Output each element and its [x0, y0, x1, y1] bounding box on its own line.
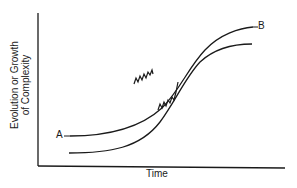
zigzag-upper — [134, 70, 153, 84]
diagram-canvas — [0, 0, 297, 188]
curve-end-label: B — [258, 20, 265, 31]
y-axis-label: Evolution or Growth of Complexity — [6, 10, 34, 160]
zigzag-lower — [158, 82, 178, 110]
y-axis-label-line2: of Complexity — [20, 41, 31, 129]
curve-start-label: A — [56, 129, 63, 140]
curve-second — [69, 44, 252, 153]
x-axis-label: Time — [146, 168, 168, 179]
y-axis-label-line1: Evolution or Growth — [9, 41, 20, 129]
